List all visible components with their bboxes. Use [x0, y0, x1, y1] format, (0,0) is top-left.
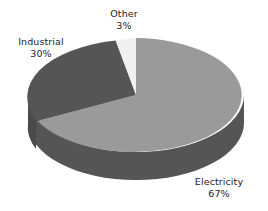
- slice-label-other: Other 3%: [94, 8, 154, 32]
- slice-label-electricity-name: Electricity: [178, 176, 260, 188]
- slice-label-industrial: Industrial 30%: [2, 36, 80, 60]
- slice-label-other-name: Other: [94, 8, 154, 20]
- pie-chart: Other 3% Industrial 30% Electricity 67%: [0, 0, 268, 211]
- slice-label-industrial-value: 30%: [2, 48, 80, 60]
- slice-label-other-value: 3%: [94, 20, 154, 32]
- slice-label-electricity-value: 67%: [178, 188, 260, 200]
- slice-label-electricity: Electricity 67%: [178, 176, 260, 200]
- slice-label-industrial-name: Industrial: [2, 36, 80, 48]
